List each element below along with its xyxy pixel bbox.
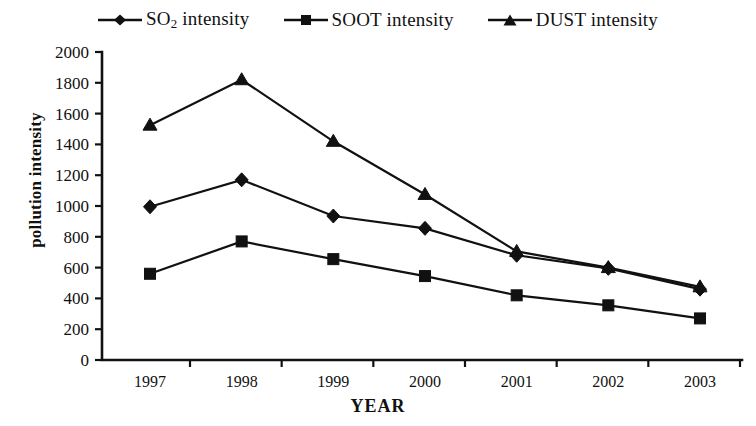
series-triangle — [143, 73, 707, 292]
data-point-square — [328, 254, 339, 265]
x-tick-label: 2002 — [592, 373, 624, 390]
y-tick-label: 400 — [64, 289, 90, 308]
x-tick-label: 1998 — [226, 373, 258, 390]
data-point-triangle — [235, 73, 249, 85]
x-tick-label: 1999 — [317, 373, 349, 390]
x-axis-ticks: 1997199819992000200120022003 — [134, 360, 740, 390]
axis-frame — [102, 52, 742, 360]
y-tick-label: 800 — [64, 228, 90, 247]
data-point-square — [695, 313, 706, 324]
x-tick-label: 2000 — [409, 373, 441, 390]
y-axis-ticks: 0200400600800100012001400160018002000 — [55, 43, 102, 370]
data-point-triangle — [510, 244, 524, 256]
data-point-square — [236, 236, 247, 247]
data-point-diamond — [144, 200, 157, 214]
x-tick-label: 2003 — [684, 373, 716, 390]
data-point-triangle — [418, 187, 432, 199]
y-tick-label: 200 — [64, 320, 90, 339]
data-point-square — [145, 268, 156, 279]
y-tick-label: 1200 — [55, 166, 89, 185]
data-point-square — [603, 300, 614, 311]
data-point-diamond — [327, 209, 340, 223]
series-square — [145, 236, 706, 324]
chart-figure: SO2 intensity SOOT intensity DUST intens… — [0, 0, 756, 426]
x-tick-label: 1997 — [134, 373, 166, 390]
data-point-square — [511, 290, 522, 301]
y-tick-label: 1400 — [55, 135, 89, 154]
data-point-diamond — [235, 173, 248, 187]
plot-area: 0200400600800100012001400160018002000 19… — [0, 0, 756, 426]
series-group — [143, 73, 707, 324]
y-tick-label: 1800 — [55, 74, 89, 93]
y-tick-label: 600 — [64, 259, 90, 278]
y-tick-label: 2000 — [55, 43, 89, 62]
data-point-diamond — [419, 221, 432, 235]
x-tick-label: 2001 — [501, 373, 533, 390]
y-tick-label: 0 — [81, 351, 90, 370]
data-point-triangle — [143, 118, 157, 130]
data-point-square — [420, 271, 431, 282]
data-point-triangle — [326, 134, 340, 146]
y-tick-label: 1000 — [55, 197, 89, 216]
y-tick-label: 1600 — [55, 105, 89, 124]
